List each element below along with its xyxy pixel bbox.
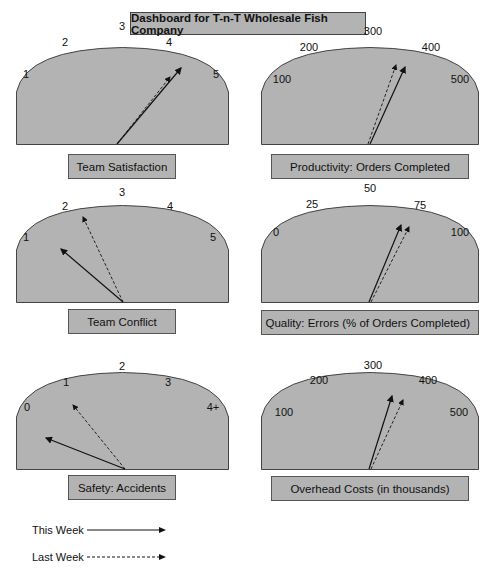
tick-label: 5 (210, 231, 216, 243)
tick-label: 4 (166, 36, 172, 48)
tick-label: 50 (364, 182, 376, 194)
gauge-productivity: 100 200 300 400 500 (261, 47, 479, 145)
tick-label: 200 (300, 41, 318, 53)
gauge-dial (16, 372, 229, 470)
tick-label: 200 (310, 374, 328, 386)
legend-last-week: Last Week (32, 551, 167, 563)
tick-label: 100 (451, 226, 469, 238)
gauge-safety-accidents: 0 1 2 3 4+ (16, 372, 229, 470)
tick-label: 300 (364, 359, 382, 371)
gauge-dial (16, 47, 229, 145)
gauge-team-conflict: 1 2 3 4 5 (16, 205, 229, 303)
gauge-team-satisfaction: 1 2 3 4 5 (16, 47, 229, 145)
gauge-label-productivity: Productivity: Orders Completed (271, 154, 469, 179)
gauge-quality-errors: 0 25 50 75 100 (261, 205, 479, 303)
tick-label: 2 (62, 36, 68, 48)
tick-label: 100 (275, 406, 293, 418)
gauge-dial (261, 47, 479, 145)
tick-label: 100 (273, 73, 291, 85)
tick-label: 2 (119, 360, 125, 372)
tick-label: 400 (419, 374, 437, 386)
tick-label: 1 (63, 376, 69, 388)
solid-arrow-icon (87, 526, 167, 534)
tick-label: 1 (23, 231, 29, 243)
tick-label: 5 (213, 68, 219, 80)
tick-label: 0 (24, 401, 30, 413)
gauge-label-quality-errors: Quality: Errors (% of Orders Completed) (261, 310, 479, 335)
gauge-dial (261, 372, 479, 470)
tick-label: 1 (23, 68, 29, 80)
gauge-label-team-satisfaction: Team Satisfaction (68, 154, 176, 179)
dashed-arrow-icon (87, 553, 167, 561)
tick-label: 2 (62, 200, 68, 212)
gauge-overhead-costs: 100 200 300 400 500 (261, 372, 479, 470)
tick-label: 4+ (207, 401, 220, 413)
tick-label: 500 (451, 73, 469, 85)
tick-label: 0 (273, 226, 279, 238)
tick-label: 4 (167, 200, 173, 212)
gauge-label-overhead-costs: Overhead Costs (in thousands) (271, 476, 469, 501)
legend-label-last-week: Last Week (32, 551, 84, 563)
tick-label: 3 (165, 376, 171, 388)
gauge-label-safety-accidents: Safety: Accidents (68, 475, 176, 500)
tick-label: 400 (422, 41, 440, 53)
dashboard-title: Dashboard for T-n-T Wholesale Fish Compa… (130, 12, 366, 35)
tick-label: 300 (364, 25, 382, 37)
tick-label: 500 (450, 406, 468, 418)
tick-label: 25 (306, 198, 318, 210)
tick-label: 75 (414, 199, 426, 211)
legend-this-week: This Week (32, 524, 167, 536)
legend-label-this-week: This Week (32, 524, 84, 536)
gauge-dial (16, 205, 229, 303)
tick-label: 3 (119, 186, 125, 198)
tick-label: 3 (119, 20, 125, 32)
gauge-label-team-conflict: Team Conflict (68, 309, 176, 334)
gauge-dial (261, 205, 479, 303)
